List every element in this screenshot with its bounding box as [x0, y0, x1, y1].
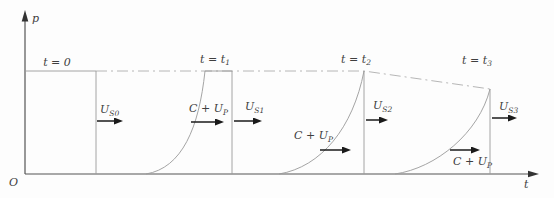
release-wave-label-3: C + UP — [453, 155, 493, 170]
y-axis-arrow-icon — [22, 10, 29, 22]
pulse-t0-outline — [25, 71, 96, 174]
diagram-canvas: p O t t = 0 t = t1 t = t2 t = t3 US0 US1… — [0, 0, 554, 198]
t-axis-arrow-icon — [528, 171, 539, 177]
origin-label: O — [9, 176, 18, 189]
shock-velocity-label-3: US3 — [499, 100, 518, 115]
release-wave-label-2: C + UP — [294, 129, 334, 144]
pressure-time-diagram: p O t t = 0 t = t1 t = t2 t = t3 US0 US1… — [0, 0, 554, 198]
time-label-t2: t = t2 — [341, 53, 371, 67]
shock-velocity-label-2: US2 — [373, 99, 392, 114]
time-label-t0: t = 0 — [43, 56, 71, 69]
pulse-t1-outline — [146, 71, 232, 174]
shock-velocity-label-1: US1 — [245, 100, 264, 115]
time-label-t1: t = t1 — [200, 53, 230, 67]
time-label-t3: t = t3 — [462, 54, 492, 68]
release-wave-label-1: C + UP — [189, 102, 229, 117]
shock-velocity-label-0: US0 — [100, 103, 119, 118]
pulse-t2-outline — [279, 71, 364, 174]
pulse-profiles — [25, 71, 490, 174]
y-axis-label: p — [32, 12, 39, 25]
axes — [22, 10, 539, 177]
peak-pressure-envelope-line — [96, 71, 490, 89]
t-axis-label: t — [524, 178, 529, 191]
